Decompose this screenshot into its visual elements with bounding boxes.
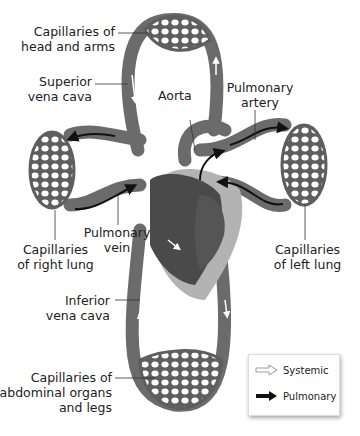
white-arrow-icon [255, 364, 279, 376]
label-head-capillaries: Capillaries of head and arms [21, 24, 115, 54]
legend-label-pulmonary: Pulmonary [283, 391, 336, 402]
black-arrow-icon [255, 390, 279, 402]
label-pulmonary-artery: Pulmonary artery [225, 80, 295, 110]
label-aorta: Aorta [158, 88, 192, 103]
right-lung-capillaries [30, 132, 74, 208]
circulatory-diagram: Capillaries of head and arms Superior ve… [0, 0, 360, 436]
legend-item-systemic: Systemic [255, 364, 329, 376]
label-abdominal-capillaries: Capillaries of abdominal organs and legs [0, 370, 112, 415]
label-inferior-vena-cava: Inferior vena cava [46, 293, 110, 323]
legend-item-pulmonary: Pulmonary [255, 390, 336, 402]
legend-label-systemic: Systemic [283, 365, 329, 376]
label-superior-vena-cava: Superior vena cava [28, 74, 92, 104]
label-right-lung: Capillaries of right lung [8, 242, 103, 272]
label-left-lung: Capillaries of left lung [260, 242, 355, 272]
legend: Systemic Pulmonary [248, 354, 340, 416]
left-lung-capillaries [282, 125, 326, 205]
